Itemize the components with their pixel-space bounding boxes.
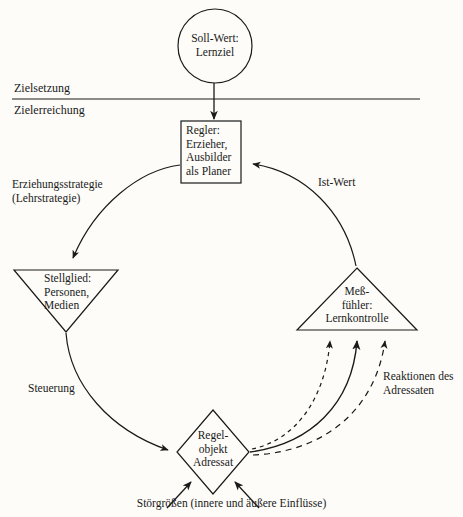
edge-reaktionen-dashed-inner [252,341,330,449]
diagram-caption-stoergroessen: Störgrößen (innere und äußere Einflüsse) [0,497,463,509]
edge-label-reaktionen: Reaktionen des Adressaten [383,369,454,397]
edge-label-erziehungsstrategie: Erziehungsstrategie (Lehrstrategie) [12,177,103,205]
node-regler-shape [181,121,241,183]
node-soll-wert-shape [178,9,252,83]
diagram-page: Soll-Wert: Lernziel Regler: Erzieher, Au… [0,0,463,517]
node-regelobjekt-shape [177,410,249,494]
edge-label-steuerung: Steuerung [28,381,75,395]
edge-label-ist-wert: Ist-Wert [318,175,355,189]
zone-label-zielerreichung: Zielerreichung [14,103,85,118]
zone-label-zielsetzung: Zielsetzung [14,81,70,96]
edge-reaktionen-dashed-outer [253,341,385,455]
node-stellglied-shape [14,270,118,332]
edge-regelobjekt-to-messfuehler [250,341,357,452]
control-loop-diagram [0,0,463,517]
edge-stellglied-to-regelobjekt [66,333,168,450]
node-messfuehler-shape [297,268,417,330]
